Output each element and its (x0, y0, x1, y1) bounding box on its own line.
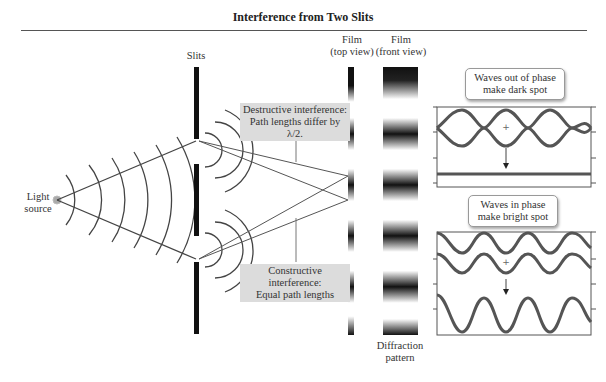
in-phase-callout: Waves in phase make bright spot (468, 195, 558, 227)
constructive-line2: Equal path lengths (242, 289, 348, 301)
constructive-interference-note: Constructive interference: Equal path le… (240, 264, 350, 302)
constructive-line1: Constructive interference: (242, 265, 348, 289)
light-source-label: Light source (18, 191, 58, 215)
incident-rays (57, 141, 196, 259)
light-source-label-line1: Light (18, 191, 58, 203)
path-lines (199, 141, 348, 259)
slits-label: Slits (176, 50, 216, 62)
slits-label-text: Slits (187, 50, 206, 61)
out-of-phase-callout: Waves out of phase make dark spot (465, 68, 565, 100)
in-phase-line2: make bright spot (473, 211, 553, 223)
svg-text:+: + (502, 122, 510, 132)
film-front-view (383, 67, 418, 335)
film-front-label-line2: (front view) (368, 46, 434, 58)
destructive-interference-note: Destructive interference: Path lengths d… (240, 103, 350, 141)
film-front-view-label: Film (front view) (368, 34, 434, 58)
dark-spot-panel: + (433, 107, 596, 187)
light-source-label-line2: source (18, 203, 58, 215)
slit-barrier (194, 67, 199, 334)
incident-wavefronts (66, 137, 195, 263)
in-phase-line1: Waves in phase (473, 199, 553, 211)
destructive-line1: Destructive interference: (242, 104, 348, 116)
out-of-phase-line1: Waves out of phase (470, 72, 560, 84)
diffraction-label-line2: pattern (370, 352, 430, 364)
destructive-line2: Path lengths differ by λ/2. (242, 116, 348, 140)
diffraction-label-line1: Diffraction (370, 340, 430, 352)
film-front-label-line1: Film (368, 34, 434, 46)
bright-spot-panel: + (433, 232, 596, 335)
out-of-phase-line2: make dark spot (470, 84, 560, 96)
svg-text:+: + (502, 257, 510, 267)
diagram-canvas: + + (0, 0, 606, 382)
diffraction-pattern-label: Diffraction pattern (370, 340, 430, 364)
